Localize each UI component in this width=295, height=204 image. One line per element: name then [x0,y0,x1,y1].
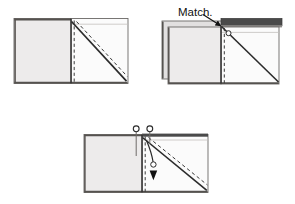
panel2-dark-top-strip [221,18,282,25]
panel-1-step-one [14,19,128,84]
panel3-dark-top-strip [142,134,208,137]
match-label: Match. [178,6,213,18]
instruction-diagram: Match. [0,0,295,204]
panel-3-step-three [84,126,208,193]
panel3-left-half [84,135,142,193]
panel1-left-half [14,19,71,84]
panel2-front-left-half [168,27,221,84]
diagram-canvas: Match. [0,0,295,204]
panel3-arrow-circle-marker-icon [151,162,156,167]
panel2-pin-marker-icon [226,31,231,36]
